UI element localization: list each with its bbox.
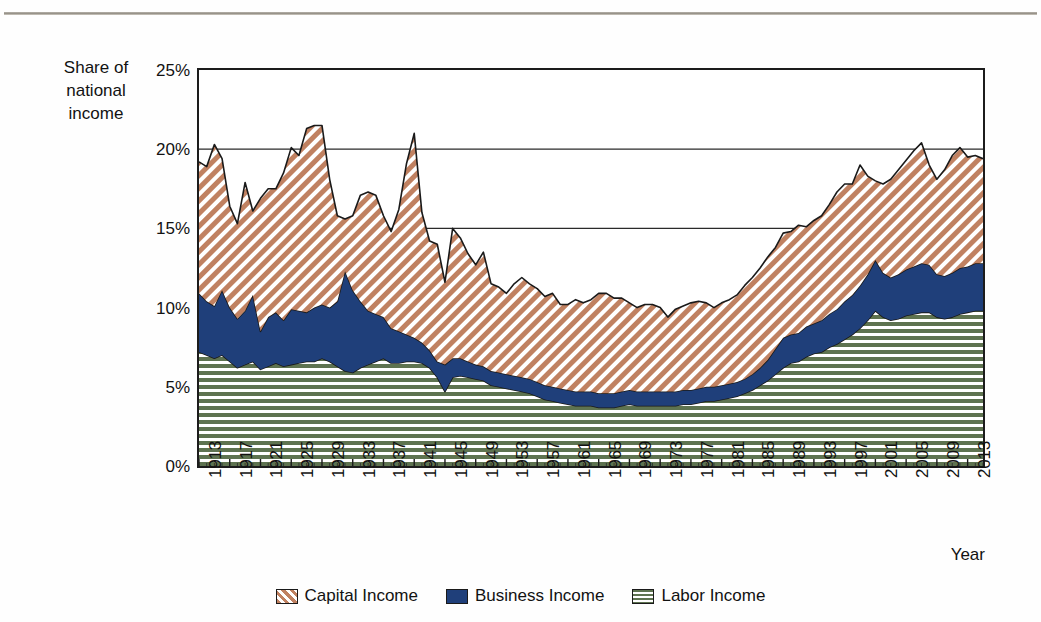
x-tick-label: 1977 <box>698 441 718 478</box>
horizontal-hatch-swatch <box>632 589 654 604</box>
x-tick-label: 1973 <box>667 441 687 478</box>
x-tick-label: 1949 <box>483 441 503 478</box>
x-tick-label: 2001 <box>882 441 902 478</box>
x-tick-label: 1937 <box>390 441 410 478</box>
chart-page: Share of national income 25%20%15%10%5%0… <box>0 0 1041 622</box>
x-tick-label: 1941 <box>421 441 441 478</box>
x-axis-tick-labels: 1913191719211925192919331937194119451949… <box>0 0 1041 622</box>
x-tick-label: 1969 <box>636 441 656 478</box>
x-tick-label: 1925 <box>298 441 318 478</box>
x-tick-label: 2005 <box>913 441 933 478</box>
x-tick-label: 1945 <box>452 441 472 478</box>
legend-item[interactable]: Business Income <box>446 586 604 606</box>
legend-label: Labor Income <box>661 586 765 606</box>
x-tick-label: 2009 <box>944 441 964 478</box>
x-tick-label: 1957 <box>544 441 564 478</box>
legend-item[interactable]: Labor Income <box>632 586 765 606</box>
legend-label: Capital Income <box>305 586 418 606</box>
x-tick-label: 1953 <box>513 441 533 478</box>
diagonal-hatch-swatch <box>276 589 298 604</box>
x-tick-label: 1917 <box>237 441 257 478</box>
chart-legend: Capital IncomeBusiness IncomeLabor Incom… <box>0 586 1041 606</box>
x-axis-title: Year <box>951 545 985 565</box>
x-tick-label: 1997 <box>852 441 872 478</box>
legend-label: Business Income <box>475 586 604 606</box>
x-tick-label: 1921 <box>267 441 287 478</box>
x-tick-label: 1913 <box>206 441 226 478</box>
x-tick-label: 1929 <box>329 441 349 478</box>
x-tick-label: 1981 <box>729 441 749 478</box>
x-tick-label: 1993 <box>821 441 841 478</box>
x-tick-label: 1985 <box>759 441 779 478</box>
x-tick-label: 2013 <box>975 441 995 478</box>
solid-navy-swatch <box>446 589 468 604</box>
x-tick-label: 1989 <box>790 441 810 478</box>
legend-item[interactable]: Capital Income <box>276 586 418 606</box>
x-tick-label: 1965 <box>606 441 626 478</box>
x-tick-label: 1933 <box>360 441 380 478</box>
x-tick-label: 1961 <box>575 441 595 478</box>
